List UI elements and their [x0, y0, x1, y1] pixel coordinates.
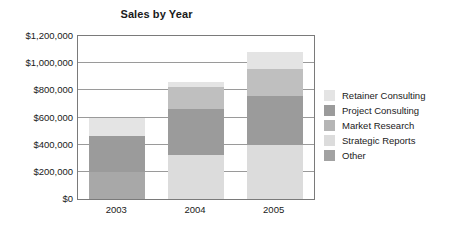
y-axis-tick-label: $1,200,000: [0, 30, 73, 41]
bar-segment[interactable]: [89, 136, 145, 172]
x-axis-tick-label: 2003: [77, 204, 156, 215]
bar-group-2004[interactable]: [168, 36, 224, 199]
legend-swatch-icon: [324, 105, 335, 116]
legend-label: Other: [342, 150, 366, 161]
legend-item[interactable]: Strategic Reports: [324, 133, 464, 148]
legend-item[interactable]: Project Consulting: [324, 103, 464, 118]
y-axis-tick-label: $1,000,000: [0, 57, 73, 68]
legend-swatch-icon: [324, 135, 335, 146]
bar-segment[interactable]: [89, 118, 145, 136]
legend-item[interactable]: Other: [324, 148, 464, 163]
bar-segment[interactable]: [247, 145, 303, 199]
legend-item[interactable]: Market Research: [324, 118, 464, 133]
legend-item[interactable]: Retainer Consulting: [324, 88, 464, 103]
chart-title: Sales by Year: [0, 8, 313, 20]
y-axis-tick-label: $600,000: [0, 111, 73, 122]
legend-swatch-icon: [324, 150, 335, 161]
bar-group-2003[interactable]: [89, 36, 145, 199]
bar-segment[interactable]: [168, 109, 224, 155]
y-axis-tick-label: $400,000: [0, 138, 73, 149]
chart-legend: Retainer ConsultingProject ConsultingMar…: [324, 88, 464, 163]
legend-label: Project Consulting: [342, 105, 419, 116]
bar-segment[interactable]: [168, 87, 224, 109]
bar-segment[interactable]: [168, 82, 224, 87]
x-axis-tick-label: 2004: [156, 204, 235, 215]
bar-segment[interactable]: [247, 69, 303, 95]
y-axis: $0$200,000$400,000$600,000$800,000$1,000…: [0, 35, 73, 198]
y-axis-tick-label: $200,000: [0, 165, 73, 176]
legend-label: Strategic Reports: [342, 135, 415, 146]
sales-by-year-chart: Sales by Year $0$200,000$400,000$600,000…: [0, 0, 466, 230]
y-axis-tick-label: $800,000: [0, 84, 73, 95]
bar-segment[interactable]: [168, 155, 224, 199]
legend-swatch-icon: [324, 120, 335, 131]
bar-segment[interactable]: [247, 52, 303, 70]
legend-swatch-icon: [324, 90, 335, 101]
bar-segment[interactable]: [89, 172, 145, 199]
bars-layer: [78, 36, 314, 199]
legend-label: Retainer Consulting: [342, 90, 425, 101]
y-axis-tick-label: $0: [0, 193, 73, 204]
x-axis: 200320042005: [77, 201, 313, 221]
bar-segment[interactable]: [247, 96, 303, 145]
x-axis-tick-label: 2005: [234, 204, 313, 215]
legend-label: Market Research: [342, 120, 414, 131]
bar-group-2005[interactable]: [247, 36, 303, 199]
plot-area: [77, 35, 315, 200]
